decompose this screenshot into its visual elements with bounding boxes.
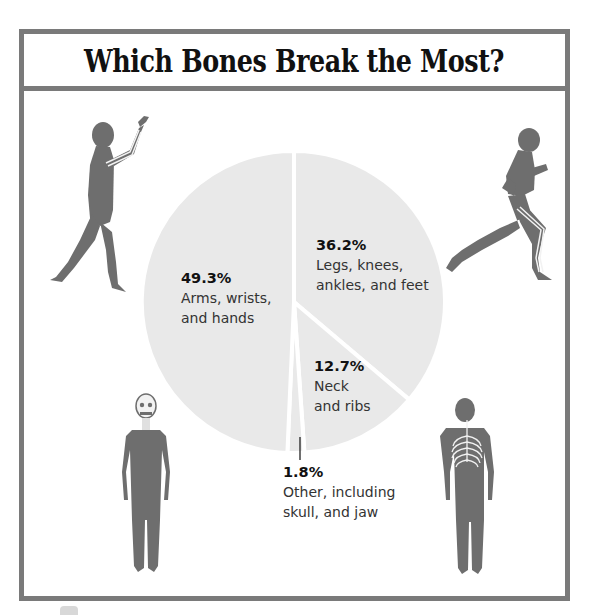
label-other-text: Other, including skull, and jaw bbox=[283, 482, 395, 522]
page-corner-mark bbox=[60, 606, 78, 615]
label-neck: 12.7% Neck and ribs bbox=[314, 356, 371, 416]
label-other: 1.8% Other, including skull, and jaw bbox=[283, 462, 395, 522]
label-legs-text: Legs, knees, ankles, and feet bbox=[316, 255, 429, 295]
pie-chart bbox=[0, 0, 589, 615]
label-other-pct: 1.8% bbox=[283, 462, 395, 482]
skull-icon bbox=[136, 394, 156, 430]
label-arms: 49.3% Arms, wrists, and hands bbox=[181, 268, 272, 328]
label-arms-text: Arms, wrists, and hands bbox=[181, 288, 272, 328]
label-legs-pct: 36.2% bbox=[316, 235, 429, 255]
label-neck-pct: 12.7% bbox=[314, 356, 371, 376]
standing-figure-skull-icon bbox=[122, 430, 170, 572]
label-neck-text: Neck and ribs bbox=[314, 376, 371, 416]
label-legs: 36.2% Legs, knees, ankles, and feet bbox=[316, 235, 429, 295]
label-arms-pct: 49.3% bbox=[181, 268, 272, 288]
